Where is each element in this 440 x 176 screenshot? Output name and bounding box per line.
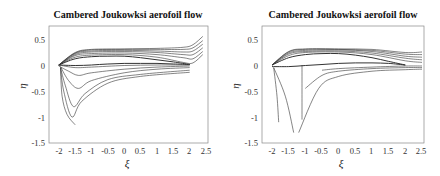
chart-title: Cambered Joukowksi aerofoil flow	[54, 9, 204, 20]
svg-text:0: 0	[254, 61, 258, 71]
svg-text:0: 0	[41, 61, 45, 71]
svg-text:0: 0	[122, 146, 126, 156]
y-axis-label: η	[16, 83, 28, 88]
svg-text:-2: -2	[268, 146, 275, 156]
streamline-lower-6	[274, 68, 294, 133]
svg-text:-1: -1	[87, 146, 94, 156]
svg-text:1: 1	[155, 146, 159, 156]
chart-left: Cambered Joukowksi aerofoil flow 0.5 0 -…	[0, 0, 220, 176]
streamline-upper-5	[59, 41, 203, 65]
streamlines	[272, 49, 422, 133]
x-tick-labels: -2 -1.5 -1 -0.5 0 0.5 1 1.5 2 2.5	[268, 146, 426, 156]
svg-text:-2: -2	[55, 146, 62, 156]
svg-text:2: 2	[403, 146, 407, 156]
axes-frame	[49, 26, 208, 143]
chart-title: Cambered Joukowksi aerofoil flow	[269, 9, 419, 20]
y-tick-labels: 0.5 0 -0.5 -1 -1.5	[32, 35, 45, 148]
svg-text:-1.5: -1.5	[245, 138, 258, 148]
svg-text:-1: -1	[38, 113, 45, 123]
axes-frame	[262, 26, 424, 143]
streamlines	[59, 36, 203, 124]
svg-text:0.5: 0.5	[247, 35, 258, 45]
svg-text:-0.5: -0.5	[314, 146, 327, 156]
svg-text:-0.5: -0.5	[245, 87, 258, 97]
svg-text:-0.5: -0.5	[101, 146, 114, 156]
y-axis-label: η	[229, 83, 241, 88]
svg-text:-1.5: -1.5	[32, 138, 45, 148]
svg-text:0.5: 0.5	[350, 146, 361, 156]
svg-text:1: 1	[369, 146, 373, 156]
svg-text:-0.5: -0.5	[32, 87, 45, 97]
chart-right: Cambered Joukowksi aerofoil flow 0.5 0 -…	[213, 0, 433, 176]
svg-text:2: 2	[187, 146, 191, 156]
chart-left-svg: Cambered Joukowksi aerofoil flow 0.5 0 -…	[0, 0, 220, 176]
x-axis-label: ξ	[125, 157, 130, 170]
svg-text:0: 0	[336, 146, 340, 156]
streamline-lower-3	[61, 67, 190, 89]
x-axis-label: ξ	[339, 157, 344, 170]
streamline-lower-3	[305, 68, 422, 89]
y-tick-labels: 0.5 0 -0.5 -1 -1.5	[245, 35, 258, 148]
x-tick-labels: -2 -1.5 -1 -0.5 0 0.5 1 1.5 2 2.5	[55, 146, 211, 156]
svg-text:1.5: 1.5	[168, 146, 179, 156]
streamline-aerofoil-lower	[272, 63, 405, 67]
svg-text:2.5: 2.5	[416, 146, 427, 156]
svg-text:-1: -1	[301, 146, 308, 156]
svg-text:0.5: 0.5	[34, 35, 45, 45]
svg-text:0.5: 0.5	[135, 146, 146, 156]
svg-text:1.5: 1.5	[383, 146, 394, 156]
svg-text:-1.5: -1.5	[281, 146, 294, 156]
svg-text:2.5: 2.5	[201, 146, 212, 156]
streamline-lower-5	[274, 68, 279, 123]
chart-right-svg: Cambered Joukowksi aerofoil flow 0.5 0 -…	[213, 0, 433, 176]
svg-text:-1.5: -1.5	[68, 146, 81, 156]
streamline-lower-5	[61, 68, 190, 118]
svg-text:-1: -1	[251, 113, 258, 123]
